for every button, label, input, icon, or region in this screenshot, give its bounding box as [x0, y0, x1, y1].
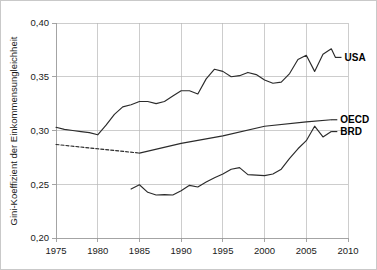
x-tick-label: 2005: [296, 245, 317, 256]
y-axis-title: Gini-Koeffizient der Einkommensungleichh…: [8, 36, 19, 225]
series-line-oecd: [139, 120, 331, 153]
series-label-oecd: OECD: [340, 114, 369, 125]
chart-figure: 19751980198519901995200020052010 0,200,2…: [0, 0, 377, 270]
series-line-brd: [131, 126, 331, 195]
series-labels: USAOECDBRD: [340, 52, 369, 137]
x-tick-label: 2010: [337, 245, 358, 256]
data-series: [56, 49, 341, 195]
x-tick-label: 1980: [87, 245, 108, 256]
y-tick-label: 0,40: [31, 17, 50, 28]
y-tick-label: 0,30: [31, 125, 50, 136]
x-tick-label: 1995: [212, 245, 233, 256]
x-tick-label: 1975: [45, 245, 66, 256]
x-tick-label: 2000: [254, 245, 275, 256]
tick-marks: [52, 23, 348, 242]
series-label-usa: USA: [344, 52, 365, 63]
series-label-brd: BRD: [340, 126, 362, 137]
y-tick-label: 0,25: [31, 179, 50, 190]
y-tick-label: 0,20: [31, 232, 50, 243]
line-chart: 19751980198519901995200020052010 0,200,2…: [1, 1, 377, 270]
x-tick-label: 1990: [171, 245, 192, 256]
gridlines: [56, 23, 348, 238]
x-tick-label: 1985: [129, 245, 150, 256]
y-tick-label: 0,35: [31, 71, 50, 82]
x-axis-tick-labels: 19751980198519901995200020052010: [45, 245, 358, 256]
y-axis-tick-labels: 0,200,250,300,350,40: [31, 17, 50, 243]
